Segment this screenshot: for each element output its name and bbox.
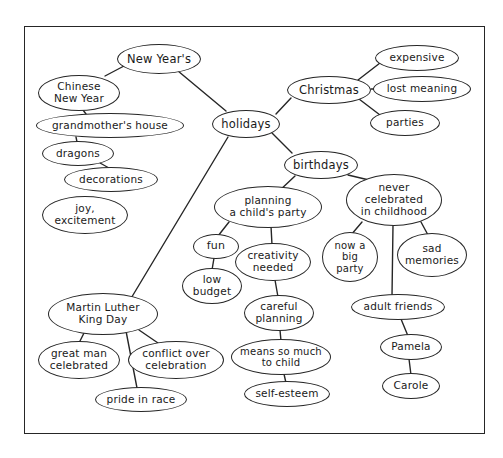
node-conflict-over[interactable]: conflict over celebration (128, 341, 224, 379)
node-label: now a big party (333, 240, 368, 274)
node-label: New Year's (125, 53, 193, 66)
node-label: Carole (392, 380, 431, 392)
node-label: sad memories (403, 243, 461, 267)
node-chinese-new-year[interactable]: Chinese New Year (38, 75, 120, 111)
node-expensive[interactable]: expensive (375, 45, 459, 71)
node-great-man[interactable]: great man celebrated (38, 341, 120, 379)
node-planning-party[interactable]: planning a child's party (214, 186, 322, 228)
node-pride-in-race[interactable]: pride in race (95, 387, 187, 412)
node-birthdays[interactable]: birthdays (284, 151, 358, 179)
node-label: self-esteem (253, 388, 320, 400)
node-parties[interactable]: parties (370, 110, 440, 136)
node-label: grandmother's house (50, 120, 170, 132)
node-dragons[interactable]: dragons (42, 141, 114, 166)
node-label: birthdays (291, 159, 351, 172)
node-christmas[interactable]: Christmas (287, 76, 371, 104)
node-carole[interactable]: Carole (382, 373, 440, 399)
node-label: joy, excitement (52, 203, 117, 227)
node-joy-excitement[interactable]: joy, excitement (42, 196, 128, 234)
node-label: expensive (387, 52, 446, 64)
node-label: Christmas (297, 84, 361, 97)
node-sad-memories[interactable]: sad memories (397, 233, 467, 277)
node-label: conflict over celebration (140, 348, 212, 372)
node-lost-meaning[interactable]: lost meaning (373, 76, 471, 102)
node-label: creativity needed (245, 250, 300, 274)
node-label: great man celebrated (48, 348, 110, 372)
node-label: means so much to child (238, 346, 324, 368)
node-label: pride in race (105, 394, 178, 406)
node-label: planning a child's party (227, 195, 308, 219)
node-pamela[interactable]: Pamela (380, 334, 442, 360)
node-label: fun (205, 240, 227, 252)
node-self-esteem[interactable]: self-esteem (244, 381, 330, 407)
node-never-celebrated[interactable]: never celebrated in childhood (346, 174, 442, 226)
node-label: Pamela (389, 341, 433, 353)
node-now-a-big-party[interactable]: now a big party (322, 232, 378, 282)
node-decorations[interactable]: decorations (64, 167, 158, 192)
node-label: careful planning (253, 301, 304, 325)
node-fun[interactable]: fun (193, 234, 239, 259)
node-label: parties (384, 117, 426, 129)
node-new-years[interactable]: New Year's (117, 44, 201, 74)
node-grandmothers-house[interactable]: grandmother's house (36, 113, 184, 138)
node-holidays[interactable]: holidays (212, 110, 280, 138)
node-adult-friends[interactable]: adult friends (351, 294, 445, 320)
node-mlk-day[interactable]: Martin Luther King Day (48, 293, 158, 335)
node-label: Martin Luther King Day (64, 302, 141, 326)
node-label: Chinese New Year (52, 81, 106, 105)
node-low-budget[interactable]: low budget (182, 268, 242, 304)
node-careful-planning[interactable]: careful planning (244, 295, 314, 331)
node-label: low budget (191, 274, 233, 298)
node-label: lost meaning (385, 83, 460, 95)
node-creativity-needed[interactable]: creativity needed (235, 243, 311, 281)
node-label: adult friends (362, 301, 435, 313)
node-label: holidays (219, 118, 272, 131)
concept-map-page: New Year'sChinese New Yeargrandmother's … (0, 0, 503, 458)
node-label: decorations (77, 174, 145, 186)
node-label: dragons (54, 148, 102, 160)
node-means-so-much[interactable]: means so much to child (231, 339, 331, 375)
node-label: never celebrated in childhood (359, 182, 429, 217)
